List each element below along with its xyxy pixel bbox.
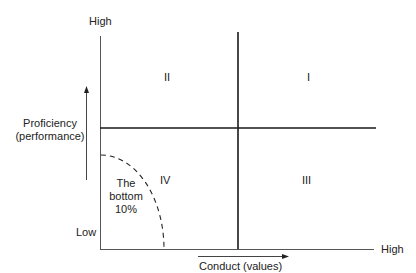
bottom-10-line3: 10% (106, 203, 146, 216)
y-axis-high-label: High (89, 15, 112, 28)
x-arrow-head-icon (282, 254, 289, 259)
quadrant-iv-label: IV (160, 174, 170, 187)
y-arrow-head-icon (84, 86, 89, 93)
y-axis-label: Proficiency (performance) (14, 117, 86, 143)
bottom-10-label: The bottom 10% (106, 177, 146, 216)
x-axis-label: Conduct (values) (199, 260, 282, 273)
quadrant-i-label: I (307, 71, 310, 84)
quadrant-ii-label: II (164, 71, 170, 84)
y-axis-label-line2: (performance) (14, 130, 86, 143)
x-axis-high-label: High (381, 243, 404, 256)
bottom-10-line1: The (106, 177, 146, 190)
bottom-10-line2: bottom (106, 190, 146, 203)
y-axis-low-label: Low (76, 226, 96, 239)
y-axis-label-line1: Proficiency (14, 117, 86, 130)
quadrant-iii-label: III (302, 174, 311, 187)
